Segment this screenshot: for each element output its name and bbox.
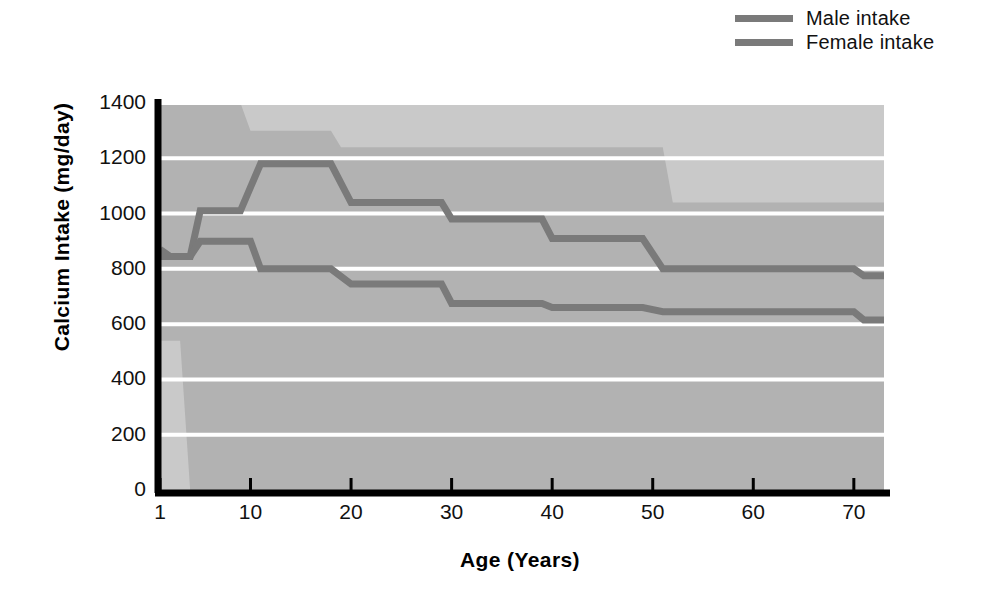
calcium-intake-chart: Male intake Female intake Calcium Intake… (0, 0, 996, 601)
plot-area (0, 0, 996, 601)
